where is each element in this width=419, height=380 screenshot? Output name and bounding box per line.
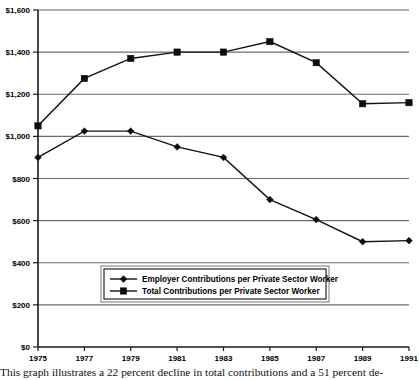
line-chart: $0$200$400$600$800$1,000$1,200$1,400$1,6… xyxy=(0,0,419,380)
data-point-square xyxy=(35,123,41,129)
y-axis-tick-label: $400 xyxy=(12,259,30,268)
data-point-diamond xyxy=(359,238,366,245)
data-point-square xyxy=(81,75,87,81)
data-point-square xyxy=(406,99,412,105)
data-point-square xyxy=(128,55,134,61)
y-axis-tick-label: $1,000 xyxy=(6,132,31,141)
data-point-diamond xyxy=(81,128,88,135)
data-point-square xyxy=(174,49,180,55)
y-axis-tick-label: $1,600 xyxy=(6,6,31,15)
data-point-diamond xyxy=(174,144,181,151)
x-axis-tick-label: 1981 xyxy=(168,354,186,363)
series-line-diamond xyxy=(38,131,409,242)
legend-label-1: Total Contributions per Private Sector W… xyxy=(142,287,320,296)
x-axis-tick-label: 1987 xyxy=(307,354,325,363)
data-point-square xyxy=(267,38,273,44)
x-axis-tick-label: 1989 xyxy=(354,354,372,363)
y-axis-tick-label: $600 xyxy=(12,217,30,226)
data-point-diamond xyxy=(35,154,42,161)
figure-caption: This graph illustrates a 22 percent decl… xyxy=(0,366,419,379)
data-point-diamond xyxy=(406,237,413,244)
legend-label-0: Employer Contributions per Private Secto… xyxy=(142,275,339,284)
data-point-diamond xyxy=(313,216,320,223)
data-point-square xyxy=(359,101,365,107)
y-axis-tick-label: $0 xyxy=(21,343,30,352)
y-axis-tick-label: $800 xyxy=(12,175,30,184)
y-axis-tick-label: $1,200 xyxy=(6,90,31,99)
x-axis-tick-label: 1975 xyxy=(29,354,47,363)
y-axis-tick-label: $1,400 xyxy=(6,48,31,57)
x-axis-tick-label: 1977 xyxy=(75,354,93,363)
chart-figure: $0$200$400$600$800$1,000$1,200$1,400$1,6… xyxy=(0,0,419,380)
data-point-square xyxy=(313,59,319,65)
data-point-square xyxy=(220,49,226,55)
x-axis-tick-label: 1979 xyxy=(122,354,140,363)
y-axis-tick-label: $200 xyxy=(12,301,30,310)
x-axis-tick-label: 1985 xyxy=(261,354,279,363)
x-axis-tick-label: 1991 xyxy=(400,354,418,363)
legend-marker-square xyxy=(120,288,126,294)
x-axis-tick-label: 1983 xyxy=(215,354,233,363)
data-point-diamond xyxy=(127,128,134,135)
